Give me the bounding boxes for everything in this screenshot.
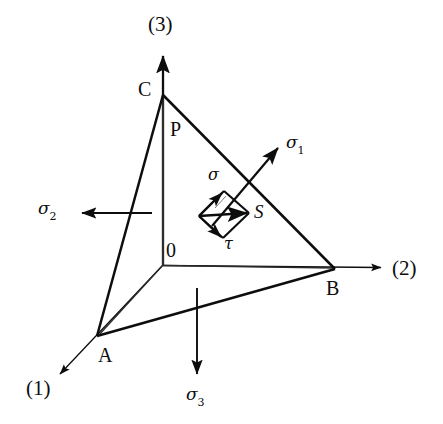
sigma-1-subscript: 1 [298,144,305,157]
plane-p-label: P [170,119,181,139]
sigma-3-base: σ [186,384,198,404]
sigma-1-base: σ [286,132,298,152]
sigma-3-label: σ3 [186,386,205,406]
sigma-3-subscript: 3 [198,396,205,409]
sigma-2-base: σ [38,198,50,218]
sigma-2-label: σ2 [38,200,57,220]
traction-point-s-label: S [254,202,264,221]
vertex-c-label: C [138,79,151,99]
vertex-b-label: B [326,278,339,298]
sigma-2-subscript: 2 [50,210,57,223]
axis-3-label: (3) [148,14,173,35]
normal-stress-label: σ [208,167,219,183]
sigma-1-label: σ1 [286,134,305,154]
traction-vector-s [199,213,247,216]
vertex-a-label: A [98,345,112,365]
parallelogram-edge-top-right [224,191,249,213]
origin-label: 0 [166,240,176,260]
principal-stress-arrows [82,148,278,374]
figure-canvas [0,0,443,424]
stress-tetrahedron-figure: (3) (2) (1) C A B 0 P S σ1 σ2 σ3 σ τ [0,0,443,424]
edge-a-b [97,269,335,336]
axis-2-label: (2) [392,258,417,279]
shear-stress-label: τ [224,236,233,252]
traction-parallelogram [199,191,249,238]
axis-1-label: (1) [26,378,51,399]
